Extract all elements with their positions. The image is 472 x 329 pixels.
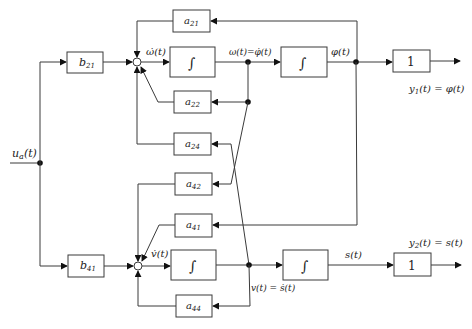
input-label: ua(t) xyxy=(12,147,37,161)
block-a42: a42 xyxy=(175,173,212,195)
s-label: s(t) xyxy=(345,249,362,260)
omega-label: ω(t)=φ̇(t) xyxy=(229,47,272,57)
block-a44: a44 xyxy=(176,295,212,317)
y2-label: y2(t) = s(t) xyxy=(408,237,463,250)
input-signal: ua(t) xyxy=(10,62,67,266)
y1-label: y1(t) = φ(t) xyxy=(408,83,465,96)
integrator-s: ∫ xyxy=(283,250,328,280)
gain-y1: 1 xyxy=(393,50,430,72)
svg-text:∫: ∫ xyxy=(301,258,308,274)
block-a22: a22 xyxy=(174,91,211,113)
svg-text:∫: ∫ xyxy=(299,55,306,71)
svg-text:1: 1 xyxy=(408,259,416,273)
block-a24: a24 xyxy=(174,133,211,155)
svg-text:∫: ∫ xyxy=(189,258,196,274)
phi-label: φ(t) xyxy=(331,46,350,57)
block-a41: a41 xyxy=(175,214,212,237)
integrator-phi: ∫ xyxy=(281,47,327,77)
block-a21: a21 xyxy=(173,10,210,32)
integrator-omega: ∫ xyxy=(170,47,215,77)
svg-text:∫: ∫ xyxy=(188,55,195,71)
integrator-v: ∫ xyxy=(171,250,216,280)
summing-junction-2 xyxy=(134,262,142,270)
v-dot-label: v̇(t) xyxy=(151,248,169,259)
summing-junction-1 xyxy=(133,58,141,66)
block-b21: b21 xyxy=(67,52,103,73)
block-diagram: ua(t) b21 b41 ω̇(t) a21 ∫ ω(t)=φ̇(t) a22 xyxy=(0,0,472,329)
gain-y2: 1 xyxy=(394,253,431,276)
block-b41: b41 xyxy=(68,255,104,277)
v-label: v(t) = ṡ(t) xyxy=(251,283,296,293)
svg-text:1: 1 xyxy=(407,55,415,69)
omega-dot-label: ω̇(t) xyxy=(146,46,166,57)
